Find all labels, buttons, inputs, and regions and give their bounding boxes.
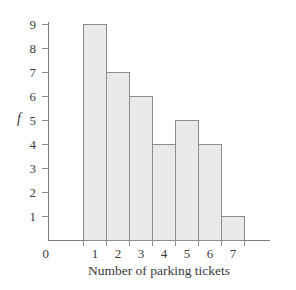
x-tick-mark-4 <box>175 241 176 246</box>
y-tick-label-3: 3 <box>18 162 36 175</box>
y-axis-line <box>48 22 49 241</box>
y-tick-label-4: 4 <box>18 138 36 151</box>
y-tick-mark-9 <box>42 24 49 25</box>
y-tick-mark-7 <box>42 72 49 73</box>
bar-5 <box>175 120 199 241</box>
x-tick-mark-7 <box>244 241 245 246</box>
y-tick-mark-6 <box>42 96 49 97</box>
x-tick-label-2: 2 <box>106 247 130 260</box>
bar-2 <box>106 72 130 241</box>
y-tick-mark-4 <box>42 144 49 145</box>
bar-7 <box>221 216 245 241</box>
x-tick-mark-6 <box>221 241 222 246</box>
bar-1 <box>83 24 107 241</box>
bar-3 <box>129 96 153 241</box>
x-tick-mark-5 <box>198 241 199 246</box>
x-tick-label-3: 3 <box>129 247 153 260</box>
x-tick-mark-0 <box>83 241 84 246</box>
y-tick-mark-8 <box>42 48 49 49</box>
y-tick-mark-1 <box>42 216 49 217</box>
axis-origin-label: 0 <box>31 247 49 260</box>
x-tick-mark-2 <box>129 241 130 246</box>
x-tick-label-1: 1 <box>83 247 107 260</box>
y-tick-mark-5 <box>42 120 49 121</box>
x-tick-label-7: 7 <box>221 247 245 260</box>
bar-6 <box>198 144 222 241</box>
x-tick-label-4: 4 <box>152 247 176 260</box>
y-tick-label-1: 1 <box>18 210 36 223</box>
y-tick-mark-2 <box>42 192 49 193</box>
x-tick-mark-3 <box>152 241 153 246</box>
y-tick-label-5: 5 <box>18 114 36 127</box>
x-tick-label-6: 6 <box>198 247 222 260</box>
bar-4 <box>152 144 176 241</box>
histogram-figure: f Number of parking tickets 0 1 2 3 4 5 … <box>0 0 296 290</box>
x-axis-title: Number of parking tickets <box>48 264 270 278</box>
y-tick-label-2: 2 <box>18 186 36 199</box>
x-tick-mark-1 <box>106 241 107 246</box>
y-tick-label-6: 6 <box>18 90 36 103</box>
y-tick-label-9: 9 <box>18 18 36 31</box>
y-tick-label-7: 7 <box>18 66 36 79</box>
y-tick-label-8: 8 <box>18 42 36 55</box>
y-tick-mark-3 <box>42 168 49 169</box>
x-tick-label-5: 5 <box>175 247 199 260</box>
